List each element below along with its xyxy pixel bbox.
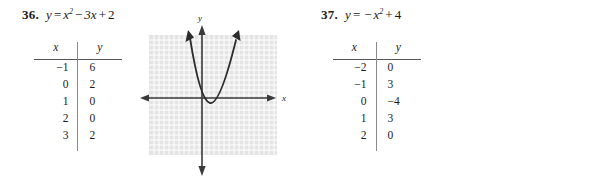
cell-x: 3: [34, 127, 77, 144]
table-row: 2 0: [34, 110, 122, 127]
table-row: 2 0: [333, 127, 421, 144]
cell-y: 0: [376, 127, 422, 144]
table-row: −1 6: [34, 59, 122, 76]
x-axis-label: x: [281, 93, 286, 103]
problem-36: 36. y=x2−3x+2 x y −1 6: [0, 0, 299, 188]
table-row: 3 2: [34, 127, 122, 144]
cell-y: 0: [77, 110, 122, 127]
equation-term2-op: −: [73, 7, 84, 22]
table-column-divider: [77, 42, 78, 151]
equation-term2: 3x: [84, 7, 96, 22]
cell-y: 3: [376, 110, 422, 127]
column-header-y: y: [77, 40, 122, 59]
column-header-y: y: [376, 40, 422, 59]
equation-term3-op: +: [97, 7, 108, 22]
table: x y −2 0 −1 3 0 −4: [333, 40, 421, 144]
column-header-x: x: [333, 40, 376, 59]
problem-36-value-table: x y −1 6 0 2 1 0: [34, 40, 122, 144]
table-rules: x y −1 6 0 2 1 0: [34, 40, 122, 144]
problem-36-header: 36. y=x2−3x+2: [22, 8, 114, 21]
equation-equals: =: [52, 7, 63, 22]
table-row: 0 2: [34, 76, 122, 93]
cell-x: 2: [34, 110, 77, 127]
cell-y: 0: [376, 59, 422, 76]
column-header-x: x: [34, 40, 77, 59]
problem-37-equation: y=−x2+4: [341, 7, 401, 22]
cell-y: 2: [77, 127, 122, 144]
equation-equals: =: [351, 7, 362, 22]
table-header-row: x y: [333, 40, 421, 59]
y-axis-arrow-up: [198, 25, 205, 35]
cell-x: −2: [333, 59, 376, 76]
equation-term2-op: +: [383, 7, 394, 22]
equation-term3: 2: [108, 7, 115, 22]
problem-37-header: 37. y=−x2+4: [321, 8, 401, 21]
x-axis-arrow-left: [140, 95, 149, 102]
table-header-rule: [333, 59, 421, 60]
equation-leading-op: −: [362, 7, 373, 22]
cell-y: −4: [376, 93, 422, 110]
graph-svg-36: x y: [140, 8, 292, 183]
cell-y: 3: [376, 76, 422, 93]
problem-36-graph: x y: [140, 8, 292, 183]
cell-x: −1: [333, 76, 376, 93]
table-column-divider: [376, 42, 377, 151]
cell-x: 2: [333, 127, 376, 144]
cell-x: −1: [34, 59, 77, 76]
table-row: 1 0: [34, 93, 122, 110]
table-row: 0 −4: [333, 93, 421, 110]
table-row: 1 3: [333, 110, 421, 127]
table-row: −2 0: [333, 59, 421, 76]
cell-x: 0: [34, 76, 77, 93]
y-axis-arrow-down: [198, 166, 205, 176]
cell-x: 1: [34, 93, 77, 110]
equation-term2: 4: [395, 7, 402, 22]
table-rules: x y −2 0 −1 3 0 −4: [333, 40, 421, 144]
cell-x: 0: [333, 93, 376, 110]
problem-37-value-table: x y −2 0 −1 3 0 −4: [333, 40, 421, 144]
table-header-rule: [34, 59, 122, 60]
cell-y: 6: [77, 59, 122, 76]
table-row: −1 3: [333, 76, 421, 93]
problem-37-number: 37.: [321, 7, 338, 22]
problem-36-equation: y=x2−3x+2: [42, 7, 114, 22]
table: x y −1 6 0 2 1 0: [34, 40, 122, 144]
problem-36-number: 36.: [22, 7, 39, 22]
cell-x: 1: [333, 110, 376, 127]
cell-y: 0: [77, 93, 122, 110]
y-axis-label: y: [197, 13, 202, 23]
cell-y: 2: [77, 76, 122, 93]
table-header-row: x y: [34, 40, 122, 59]
problem-37: 37. y=−x2+4 x y −2 0: [299, 0, 598, 188]
